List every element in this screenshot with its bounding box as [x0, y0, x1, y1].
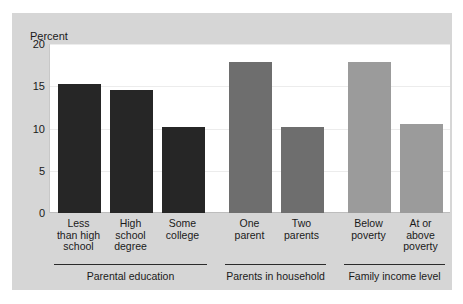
category-label-line: parents: [271, 230, 332, 242]
category-label-line: Two: [271, 218, 332, 230]
plot-area: [49, 44, 450, 213]
bar-2-1: [400, 124, 443, 213]
y-tick-label-0: 0: [15, 208, 45, 219]
bar-2-0: [348, 62, 391, 213]
group-caption-1: Parents in household: [214, 270, 337, 282]
group-rule-1: [225, 264, 326, 265]
bar-0-2: [162, 127, 205, 213]
chart-figure: Percent 05101520 Lessthan highschoolHigh…: [0, 0, 463, 304]
y-tick-label-15: 15: [15, 81, 45, 92]
chart-panel: Percent 05101520 Lessthan highschoolHigh…: [12, 13, 452, 290]
group-rule-0: [54, 264, 207, 265]
category-label-line: poverty: [390, 241, 451, 253]
category-label-line: degree: [100, 241, 161, 253]
bar-0-0: [58, 84, 101, 213]
bar-1-0: [229, 62, 272, 213]
y-axis-tick-labels: 05101520: [12, 13, 45, 290]
group-caption-2: Family income level: [333, 270, 456, 282]
gridline-20: [50, 44, 450, 45]
category-label-line: Some: [152, 218, 213, 230]
category-label-0-2: Somecollege: [152, 218, 213, 241]
group-caption-0: Parental education: [43, 270, 218, 282]
y-tick-label-20: 20: [15, 39, 45, 50]
category-label-line: college: [152, 230, 213, 242]
y-tick-label-5: 5: [15, 165, 45, 176]
category-label-1-1: Twoparents: [271, 218, 332, 241]
group-rule-2: [344, 264, 445, 265]
bar-0-1: [110, 90, 153, 213]
y-tick-label-10: 10: [15, 123, 45, 134]
bar-1-1: [281, 127, 324, 213]
category-label-line: At or: [390, 218, 451, 230]
category-label-2-1: At orabovepoverty: [390, 218, 451, 253]
